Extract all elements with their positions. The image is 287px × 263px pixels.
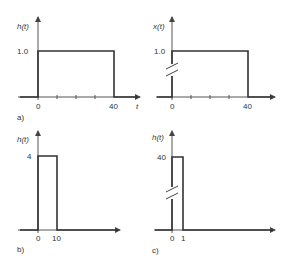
panel-x: x(t) 1.0 0 40 — [152, 17, 275, 111]
y-label: x(t) — [152, 22, 165, 31]
panel-a: h(t) 1.0 0 40 t a) — [17, 17, 140, 122]
caption: a) — [17, 113, 24, 122]
pulse-line — [20, 51, 138, 97]
y-tick-label: 4 — [27, 152, 32, 161]
y-tick-label: 1.0 — [17, 47, 29, 56]
y-label: h(t) — [152, 133, 164, 142]
y-tick-label: 40 — [157, 153, 166, 162]
x-tick-0: 0 — [170, 102, 175, 111]
y-label: h(t) — [17, 135, 29, 144]
x-tick-end: 40 — [109, 102, 118, 111]
caption: c) — [152, 246, 159, 255]
axis-break-icon — [166, 186, 178, 199]
x-tick-0: 0 — [170, 234, 175, 243]
x-tick-0: 0 — [36, 234, 41, 243]
panel-b: h(t) 4 0 10 b) — [17, 131, 120, 254]
y-label: h(t) — [17, 22, 29, 31]
x-tick-0: 0 — [36, 102, 41, 111]
caption: b) — [17, 245, 24, 254]
y-tick-label: 1.0 — [154, 47, 166, 56]
x-tick-end: 1 — [181, 234, 186, 243]
diagram-canvas: h(t) 1.0 0 40 t a) x(t) 1.0 0 40 h(t) 4 … — [0, 0, 287, 263]
x-tick-end: 10 — [52, 234, 61, 243]
x-label: t — [136, 102, 139, 111]
pulse-line — [20, 156, 118, 230]
panel-c: h(t) 40 0 1 c) — [152, 131, 275, 255]
x-tick-end: 40 — [243, 102, 252, 111]
axis-break-icon — [166, 63, 178, 76]
